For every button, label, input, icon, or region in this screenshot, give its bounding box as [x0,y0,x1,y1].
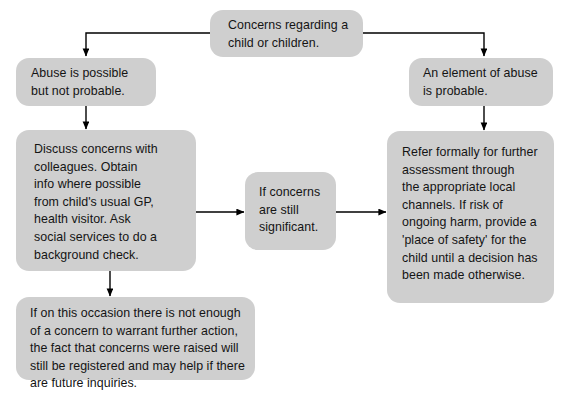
node-concerns-label: Concerns regarding a child or children. [228,17,348,52]
node-still-significant[interactable]: If concerns are still significant. [245,172,336,250]
node-abuse-possible-label: Abuse is possible but not probable. [31,65,128,100]
node-not-enough-concern[interactable]: If on this occasion there is not enough … [16,297,255,380]
node-not-enough-concern-label: If on this occasion there is not enough … [30,305,245,393]
node-discuss-concerns-label: Discuss concerns with colleagues. Obtain… [34,141,158,264]
node-refer-formally-label: Refer formally for further assessment th… [402,144,538,285]
node-abuse-possible[interactable]: Abuse is possible but not probable. [16,58,156,106]
node-discuss-concerns[interactable]: Discuss concerns with colleagues. Obtain… [16,130,196,271]
connector-concerns-to-abuse-probable [363,33,484,56]
connector-concerns-to-abuse-possible [86,33,210,56]
node-abuse-probable-label: An element of abuse is probable. [423,65,538,100]
node-abuse-probable[interactable]: An element of abuse is probable. [409,58,553,106]
node-concerns[interactable]: Concerns regarding a child or children. [210,10,363,57]
flowchart-canvas: Concerns regarding a child or children. … [0,0,569,401]
node-still-significant-label: If concerns are still significant. [259,184,320,237]
node-refer-formally[interactable]: Refer formally for further assessment th… [387,131,554,303]
